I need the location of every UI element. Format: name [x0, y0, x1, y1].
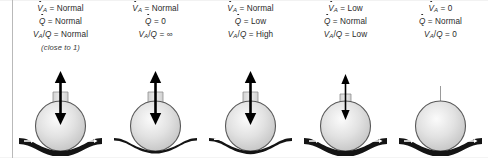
alveolus-diagram-normal	[13, 70, 108, 156]
perfusion-equation: Q = 0	[108, 16, 203, 28]
ventilation-subscript: A	[434, 6, 438, 13]
airflow-arrow-head-up	[245, 71, 256, 83]
ratio-denominator-symbol: Q	[436, 30, 442, 39]
perfusion-symbol: Q	[324, 16, 330, 28]
ventilation-symbol: V	[328, 3, 334, 15]
alveolus-sphere	[416, 101, 466, 151]
ventilation-symbol: V	[428, 3, 434, 15]
alveolus-diagram-shunt	[393, 70, 488, 156]
ventilation-subscript: A	[43, 6, 47, 13]
ventilation-symbol: V	[227, 3, 233, 15]
ratio-value: ∞	[167, 30, 173, 39]
perfusion-equation: Q = Normal	[298, 16, 393, 28]
ratio-denominator-symbol: Q	[336, 30, 342, 39]
perfusion-symbol: Q	[39, 16, 45, 28]
perfusion-value: Normal	[340, 17, 367, 26]
ventilation-subscript: A	[334, 6, 338, 13]
vq-labels-normal: VA = Normal Q = Normal VA/Q = Normal (cl…	[13, 3, 108, 55]
airflow-arrow-head-up	[341, 74, 349, 84]
perfusion-operator: =	[154, 17, 159, 26]
vq-labels-low-ratio: VA = Low Q = Normal VA/Q = Low	[298, 3, 393, 42]
ventilation-equation: VA = Normal	[108, 3, 203, 16]
ratio-value: 0	[452, 30, 457, 39]
perfusion-operator: =	[244, 17, 249, 26]
ratio-equation: VA/Q = Low	[298, 29, 393, 42]
ratio-operator: =	[345, 30, 350, 39]
ratio-equation: VA/Q = High	[203, 29, 298, 42]
ventilation-value: Low	[348, 4, 363, 13]
perfusion-symbol: Q	[145, 16, 151, 28]
alveolus-diagram-low-ratio	[298, 70, 393, 156]
ventilation-value: 0	[448, 4, 453, 13]
perfusion-value: Low	[251, 17, 266, 26]
airflow-arrow	[345, 82, 347, 114]
ratio-value: Normal	[61, 30, 88, 39]
ratio-note: (close to 1)	[13, 42, 108, 54]
ratio-operator: =	[249, 30, 254, 39]
vq-column-list: VA = Normal Q = Normal VA/Q = Normal (cl…	[13, 0, 488, 158]
vq-ratio-figure: VA = Normal Q = Normal VA/Q = Normal (cl…	[0, 0, 488, 158]
ventilation-symbol: V	[132, 3, 138, 15]
ventilation-equation: VA = Normal	[203, 3, 298, 16]
perfusion-equation: Q = Low	[203, 16, 298, 28]
ventilation-equation: VA = Normal	[13, 3, 108, 16]
vq-column-normal: VA = Normal Q = Normal VA/Q = Normal (cl…	[13, 0, 108, 158]
airflow-arrow-head-up	[150, 71, 161, 83]
ventilation-value: Normal	[152, 4, 179, 13]
ventilation-subscript: A	[233, 6, 237, 13]
ventilation-operator: =	[340, 4, 345, 13]
perfusion-value: Normal	[55, 17, 82, 26]
vq-column-high-ratio: VA = Normal Q = Low VA/Q = High	[203, 0, 298, 158]
ratio-equation: VA/Q = 0	[393, 29, 488, 42]
ventilation-equation: VA = 0	[393, 3, 488, 16]
ventilation-operator: =	[144, 4, 149, 13]
ratio-value: Low	[352, 30, 367, 39]
ratio-denominator-symbol: Q	[240, 30, 246, 39]
airflow-arrow	[59, 80, 62, 118]
ratio-equation: VA/Q = Normal	[13, 29, 108, 42]
vq-column-dead-space: VA = Normal Q = 0 VA/Q = ∞	[108, 0, 203, 158]
ratio-value: High	[256, 30, 273, 39]
airflow-arrow	[249, 80, 252, 118]
ventilation-operator: =	[239, 4, 244, 13]
perfusion-equation: Q = Normal	[13, 16, 108, 28]
vq-labels-high-ratio: VA = Normal Q = Low VA/Q = High	[203, 3, 298, 42]
perfusion-equation: Q = Normal	[393, 16, 488, 28]
perfusion-operator: =	[48, 17, 53, 26]
ratio-operator: =	[54, 30, 59, 39]
airflow-arrow	[154, 80, 157, 118]
vq-column-shunt: VA = 0 Q = Normal VA/Q = 0	[393, 0, 488, 158]
perfusion-value: 0	[161, 17, 166, 26]
ventilation-operator: =	[49, 4, 54, 13]
ventilation-value: Normal	[247, 4, 274, 13]
ratio-denominator-symbol: Q	[151, 30, 157, 39]
vq-labels-shunt: VA = 0 Q = Normal VA/Q = 0	[393, 3, 488, 42]
ratio-operator: =	[445, 30, 450, 39]
alveolus-diagram-high-ratio	[203, 70, 298, 156]
perfusion-value: Normal	[435, 17, 462, 26]
perfusion-operator: =	[428, 17, 433, 26]
ventilation-equation: VA = Low	[298, 3, 393, 16]
vq-labels-dead-space: VA = Normal Q = 0 VA/Q = ∞	[108, 3, 203, 42]
ventilation-subscript: A	[138, 6, 142, 13]
vq-column-low-ratio: VA = Low Q = Normal VA/Q = Low	[298, 0, 393, 158]
airflow-arrow-head-up	[55, 71, 66, 83]
ratio-denominator-symbol: Q	[45, 30, 51, 39]
ratio-equation: VA/Q = ∞	[108, 29, 203, 42]
ratio-operator: =	[159, 30, 164, 39]
alveolus-diagram-dead-space	[108, 70, 203, 156]
ventilation-value: Normal	[57, 4, 84, 13]
perfusion-operator: =	[333, 17, 338, 26]
perfusion-symbol: Q	[235, 16, 241, 28]
ventilation-operator: =	[441, 4, 446, 13]
perfusion-symbol: Q	[419, 16, 425, 28]
